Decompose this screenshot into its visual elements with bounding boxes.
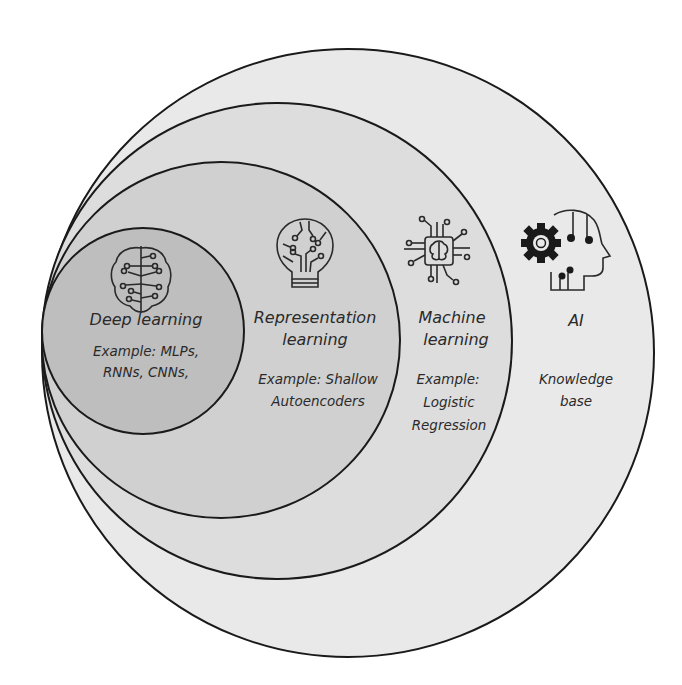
representation-learning-title-line1: Representation — [254, 308, 377, 327]
machine-learning-title-line1: Machine — [419, 308, 486, 327]
machine-learning-example-line1: Example: — [416, 371, 479, 387]
deep-learning-title: Deep learning — [90, 310, 203, 329]
machine-learning-example-line2: Logistic — [423, 394, 475, 410]
representation-learning-example-line1: Example: Shallow — [258, 371, 378, 387]
ai-title: AI — [568, 311, 584, 330]
deep-learning-example-line2: RNNs, CNNs, — [103, 364, 189, 380]
deep-learning-example-line1: Example: MLPs, — [93, 343, 199, 359]
ai-example-line1: Knowledge — [539, 371, 613, 387]
deep-learning-region — [42, 228, 244, 434]
representation-learning-example-line2: Autoencoders — [271, 393, 364, 409]
machine-learning-title-line2: learning — [423, 330, 489, 349]
representation-learning-title-line2: learning — [282, 330, 348, 349]
ai-example-line2: base — [560, 393, 592, 409]
machine-learning-example-line3: Regression — [412, 417, 487, 433]
